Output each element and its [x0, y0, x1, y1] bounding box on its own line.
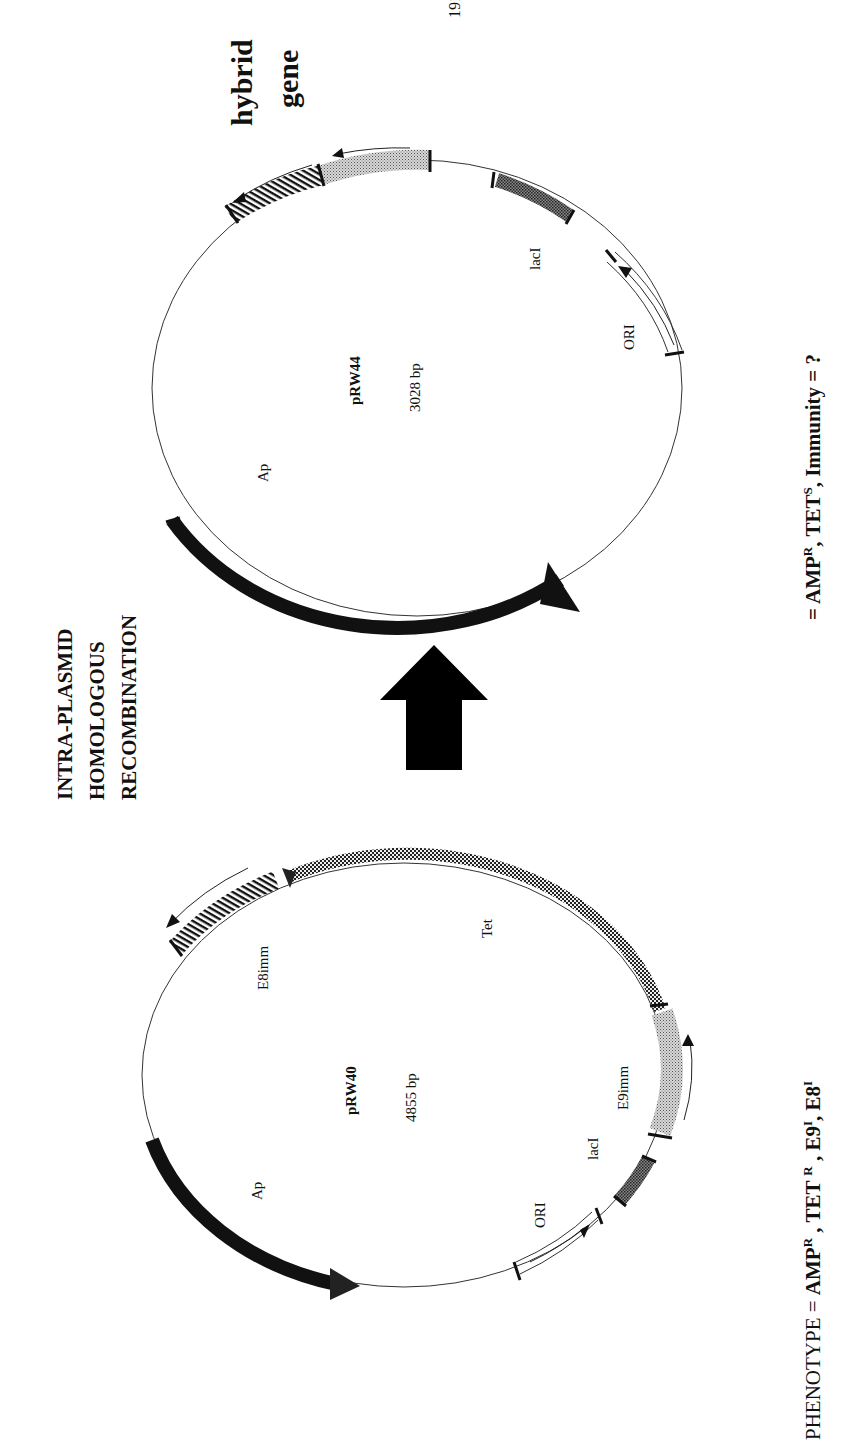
- ori-label: ORI: [532, 1202, 548, 1228]
- hybrid-gene-stippled-segment: [322, 160, 430, 175]
- plasmid-size-prw40: 4855 bp: [403, 1073, 419, 1122]
- ap-label: Ap: [255, 464, 271, 482]
- plasmid-prw44: Ap pRW44 3028 bp lacI ORI hybrid gene: [152, 39, 684, 628]
- plasmid-prw40: Ap E8imm Tet pRW40 4855 bp E9imm lacI OR…: [142, 854, 694, 1300]
- ap-gene-arc: [152, 1140, 336, 1284]
- e9imm-label: E9imm: [615, 1066, 631, 1110]
- e8imm-label: E8imm: [255, 946, 271, 990]
- ap-arrowhead-icon: [330, 1268, 360, 1300]
- plasmid-size-prw44: 3028 bp: [407, 363, 423, 412]
- laci-gene-arc: [497, 180, 570, 216]
- ap-label: Ap: [249, 1182, 265, 1200]
- e9imm-gene-arc: [660, 1012, 672, 1132]
- hybrid-gene-label-line2: gene: [271, 50, 304, 108]
- tet-gene-arc: [288, 854, 660, 1010]
- phenotype-before: PHENOTYPE = AMPR , TET R , E9I, E8I: [800, 1081, 825, 1440]
- laci-gene-arc: [620, 1160, 648, 1200]
- ori-arc-inner: [607, 262, 668, 352]
- hybrid-gene-label-line1: hybrid: [225, 39, 258, 126]
- laci-label: lacI: [585, 1138, 601, 1160]
- e8imm-gene-arc: [176, 880, 276, 948]
- ori-label: ORI: [621, 324, 637, 350]
- page-number: 191: [446, 0, 463, 18]
- laci-label: lacI: [527, 248, 543, 270]
- process-label-line1: INTRA-PLASMID: [53, 628, 77, 800]
- ori-direction-arrow-icon: [618, 266, 632, 278]
- process-label-line3: RECOMBINATION: [117, 615, 141, 800]
- plasmid-name-prw44: pRW44: [347, 356, 363, 405]
- process-label-line2: HOMOLOGOUS: [85, 641, 109, 800]
- phenotype-after: = AMPR, TETS, Immunity = ?: [800, 354, 825, 620]
- recombination-arrow-icon: [380, 645, 488, 770]
- tet-label: Tet: [479, 918, 495, 938]
- plasmid-recombination-diagram: 191 Ap pRW44 3028 bp lacI: [0, 0, 858, 1451]
- e9imm-direction-arrow-icon: [682, 1034, 694, 1046]
- hybrid-direction-arrow-icon: [232, 192, 246, 203]
- plasmid-name-prw40: pRW40: [343, 1066, 359, 1115]
- ap-arrowhead-icon: [540, 562, 580, 612]
